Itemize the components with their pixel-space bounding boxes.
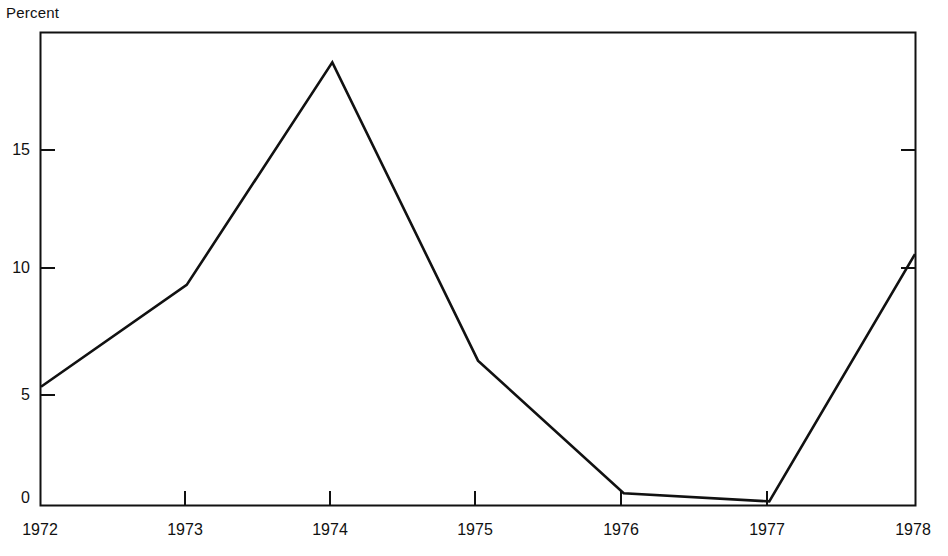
- y-tick-label-15: 15: [0, 142, 30, 158]
- x-tick-label-1975: 1975: [440, 522, 510, 538]
- series-line-percent: [41, 62, 915, 501]
- line-chart-plot: [0, 0, 948, 556]
- plot-frame: [41, 33, 916, 506]
- x-tick-label-1974: 1974: [295, 522, 365, 538]
- y-axis-ticks-left: [41, 150, 55, 395]
- x-axis-ticks: [185, 491, 767, 505]
- x-tick-label-1972: 1972: [5, 522, 75, 538]
- x-tick-label-1976: 1976: [586, 522, 656, 538]
- chart-figure: Percent 15 10 5 0 1972 1973 197: [0, 0, 948, 556]
- x-tick-label-1977: 1977: [732, 522, 802, 538]
- x-tick-label-1973: 1973: [150, 522, 220, 538]
- y-axis-ticks-right: [901, 150, 915, 268]
- y-tick-label-10: 10: [0, 260, 30, 276]
- x-tick-label-1978: 1978: [878, 522, 948, 538]
- y-tick-label-5: 5: [0, 387, 30, 403]
- y-tick-label-0: 0: [0, 490, 30, 506]
